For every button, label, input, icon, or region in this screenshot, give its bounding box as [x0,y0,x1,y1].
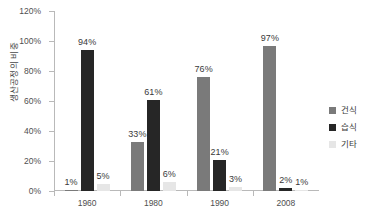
bar-value-label: 5% [97,172,110,181]
legend-item-습식[interactable]: 습식 [329,119,381,136]
bar-습식-2008: 2% [279,188,292,191]
legend-label: 건식 [341,106,357,115]
bar-value-label: 94% [78,38,96,47]
bar-value-label: 61% [144,88,162,97]
bar-건식-1990: 76% [197,77,210,191]
x-tick-label: 1960 [78,198,97,208]
y-tick-label: 20% [24,156,41,166]
y-tick-mark: 100% [49,41,54,42]
y-tick-label: 120% [19,6,41,16]
y-tick-label: 40% [24,126,41,136]
y-tick-label: 80% [24,66,41,76]
bar-value-label: 3% [229,175,242,184]
bar-value-label: 97% [261,34,279,43]
x-tick-label: 1980 [144,198,163,208]
bar-건식-1960: 1% [65,190,78,192]
bar-value-label: 1% [65,178,78,187]
x-tick-mark [54,191,55,196]
y-tick-mark: 20% [49,161,54,162]
y-axis-title: 생산공정의 비중 [10,32,19,112]
bar-기타-1990: 3% [229,187,242,192]
bar-습식-1990: 21% [213,160,226,192]
y-tick-label: 0% [29,186,41,196]
chart-legend: 건식습식기타 [329,102,381,153]
bar-value-label: 2% [279,176,292,185]
y-tick-mark: 60% [49,101,54,102]
x-tick-mark [120,191,121,196]
x-tick-mark [187,191,188,196]
bar-습식-1980: 61% [147,100,160,192]
x-tick-label: 1990 [210,198,229,208]
bar-습식-1960: 94% [81,50,94,191]
plot-area: 0%20%40%60%80%100%120% 1960198019902008 … [54,11,319,191]
legend-swatch-icon [329,107,336,114]
bar-기타-2008: 1% [295,190,308,192]
y-tick-label: 100% [19,36,41,46]
bar-기타-1960: 5% [97,184,110,192]
x-tick-label: 2008 [276,198,295,208]
legend-label: 습식 [341,123,357,132]
y-tick-label: 60% [24,96,41,106]
bar-건식-1980: 33% [131,142,144,192]
legend-item-기타[interactable]: 기타 [329,136,381,153]
bar-chart: 생산공정의 비중 0%20%40%60%80%100%120% 19601980… [0,0,382,222]
bar-건식-2008: 97% [263,46,276,192]
bar-value-label: 76% [195,65,213,74]
bar-value-label: 1% [295,178,308,187]
legend-item-건식[interactable]: 건식 [329,102,381,119]
x-tick-mark [253,191,254,196]
legend-swatch-icon [329,141,336,148]
legend-swatch-icon [329,124,336,131]
y-tick-mark: 40% [49,131,54,132]
bar-value-label: 21% [211,148,229,157]
y-tick-mark: 80% [49,71,54,72]
legend-label: 기타 [341,140,357,149]
y-axis-line [54,11,55,191]
bar-value-label: 6% [163,170,176,179]
y-tick-mark: 120% [49,11,54,12]
bar-기타-1980: 6% [163,182,176,191]
bar-value-label: 33% [128,130,146,139]
